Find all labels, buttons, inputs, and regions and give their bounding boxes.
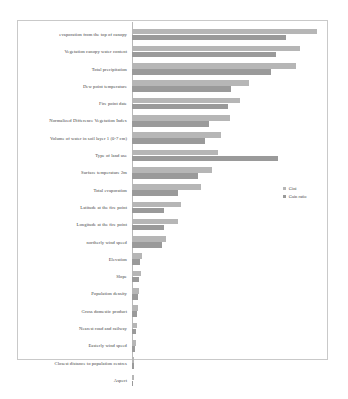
chart-row: Gross domestic product [18,303,327,320]
bar-gain-ratio [132,173,198,179]
bar-group [132,234,327,251]
bar-gain-ratio [132,138,205,144]
bar-gini [132,271,141,277]
chart-row: Normalized Difference Vegetation Index [18,112,327,129]
bar-gain-ratio [132,225,164,231]
chart-row: Latitude at the fire point [18,199,327,216]
chart-row: Easterly wind speed [18,337,327,354]
bar-group [132,95,327,112]
category-label: Longitude at the fire point [77,216,127,233]
bar-gain-ratio [132,35,286,41]
bar-gini [132,253,142,259]
bar-group [132,26,327,43]
bar-gain-ratio [132,259,140,265]
category-label: Volume of water in soil layer 1 (0-7 cm) [50,130,127,147]
chart-row: northerly wind speed [18,234,327,251]
bar-gain-ratio [132,381,133,387]
category-label: Latitude at the fire point [80,199,127,216]
bar-gini [132,236,166,242]
bar-gini [132,98,240,104]
category-label: Easterly wind speed [88,337,127,354]
category-label: Vegetation canopy water content [64,43,127,60]
bar-gini [132,150,218,156]
bar-gini [132,288,139,294]
bar-group [132,355,327,372]
bar-gain-ratio [132,86,231,92]
category-label: Slope [116,268,127,285]
bar-group [132,147,327,164]
chart-row: Total evaporation [18,182,327,199]
bar-group [132,268,327,285]
chart-row: Aspect [18,372,327,389]
bar-rows-container: evaporation from the top of canopyVegeta… [18,26,327,356]
bar-gini [132,357,134,363]
category-label: Elevation [109,251,127,268]
bar-group [132,43,327,60]
chart-row: evaporation from the top of canopy [18,26,327,43]
bar-gain-ratio [132,208,164,214]
bar-gini [132,184,201,190]
category-label: Closest distance to population centres [55,355,127,372]
bar-gini [132,115,230,121]
bar-group [132,251,327,268]
chart-row: Longitude at the fire point [18,216,327,233]
bar-group [132,216,327,233]
category-label: Population density [91,285,127,302]
bar-gain-ratio [132,277,139,283]
chart-row: Volume of water in soil layer 1 (0-7 cm) [18,130,327,147]
chart-row: Population density [18,285,327,302]
chart-row: Fire point date [18,95,327,112]
bar-gain-ratio [132,311,137,317]
bar-gain-ratio [132,346,135,352]
bar-gini [132,340,136,346]
bar-gini [132,80,249,86]
chart-row: Nearest road and railway [18,320,327,337]
legend-label: Gain ratio [289,194,307,199]
legend-item[interactable]: Gain ratio [283,194,333,199]
chart-row: Slope [18,268,327,285]
bar-gini [132,63,296,69]
feature-importance-bar-chart: evaporation from the top of canopyVegeta… [0,0,348,399]
bar-group [132,337,327,354]
chart-legend: GiniGain ratio [283,186,333,202]
bar-gain-ratio [132,104,228,110]
bar-gini [132,305,138,311]
category-label: Dew point temperature [83,78,127,95]
chart-row: Dew point temperature [18,78,327,95]
category-label: Type of land use [95,147,127,164]
category-label: Total evaporation [93,182,127,199]
category-label: Normalized Difference Vegetation Index [49,112,127,129]
category-label: Total precipitation [92,61,127,78]
legend-item[interactable]: Gini [283,186,333,191]
bar-group [132,285,327,302]
bar-gini [132,132,221,138]
category-label: Surface temperature 2m [81,164,127,181]
category-label: northerly wind speed [87,234,127,251]
category-label: Gross domestic product [82,303,127,320]
bar-gain-ratio [132,294,138,300]
category-label: Fire point date [99,95,127,112]
chart-row: Type of land use [18,147,327,164]
chart-row: Vegetation canopy water content [18,43,327,60]
bar-gini [132,219,178,225]
bar-gain-ratio [132,52,276,58]
bar-group [132,61,327,78]
bar-gini [132,29,317,35]
bar-group [132,78,327,95]
legend-swatch-icon [283,195,286,198]
chart-row: Closest distance to population centres [18,355,327,372]
bar-group [132,320,327,337]
category-label: Nearest road and railway [79,320,127,337]
bar-gain-ratio [132,190,178,196]
bar-group [132,112,327,129]
bar-gain-ratio [132,329,136,335]
category-label: Aspect [114,372,127,389]
bar-gain-ratio [132,363,134,369]
bar-group [132,130,327,147]
bar-gini [132,202,181,208]
bar-gain-ratio [132,121,209,127]
bar-group [132,372,327,389]
bar-group [132,303,327,320]
legend-swatch-icon [283,187,286,190]
bar-gini [132,167,212,173]
